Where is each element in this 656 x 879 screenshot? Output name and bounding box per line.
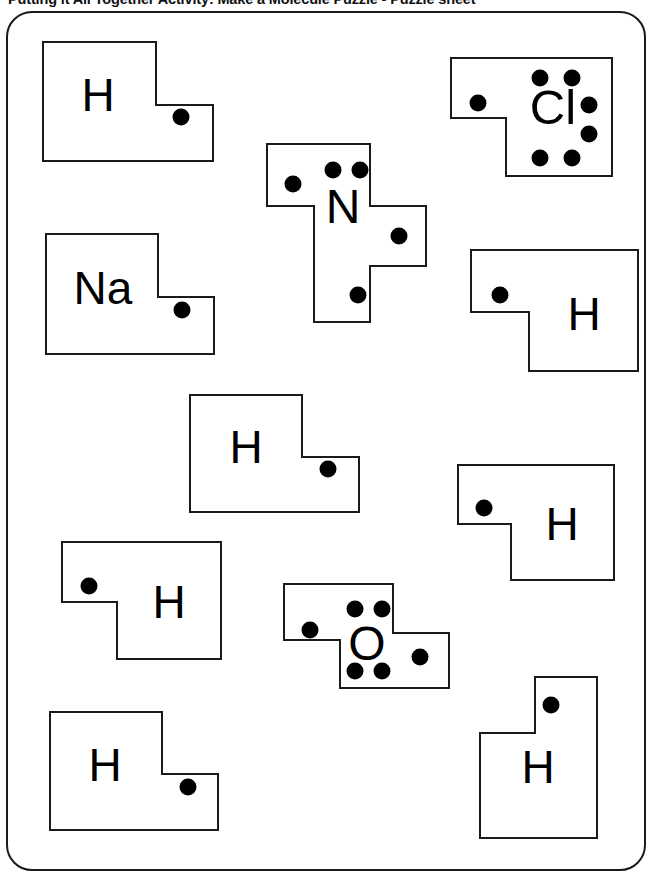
electron-dot — [476, 500, 493, 517]
piece-outline — [43, 42, 213, 161]
electron-dot-tab-right — [391, 228, 408, 245]
puzzle-piece-h-7[interactable]: H — [479, 676, 603, 842]
element-symbol: O — [348, 617, 385, 670]
electron-dot-top-left — [532, 70, 549, 87]
electron-dot-top-left — [347, 601, 364, 618]
element-symbol: H — [545, 498, 578, 550]
electron-dot-top-right — [374, 601, 391, 618]
electron-dot-top-right — [352, 162, 369, 179]
element-symbol: Na — [74, 262, 133, 314]
worksheet-page: Putting it All Together Activity: Make a… — [0, 0, 656, 879]
puzzle-piece-o-1[interactable]: O — [283, 583, 453, 692]
electron-dot — [180, 779, 197, 796]
piece-outline — [50, 712, 218, 830]
electron-dot — [173, 109, 190, 126]
element-symbol: H — [229, 421, 262, 473]
electron-dot-bottom-left — [347, 663, 364, 680]
electron-dot-tab-bottom — [350, 287, 367, 304]
piece-outline — [458, 465, 614, 580]
piece-outline — [190, 395, 359, 512]
electron-dot-tab-right — [412, 649, 429, 666]
piece-outline — [62, 542, 221, 659]
puzzle-piece-n-1[interactable]: N — [266, 143, 445, 325]
electron-dot — [174, 302, 191, 319]
piece-outline — [471, 250, 638, 371]
electron-dot — [320, 461, 337, 478]
element-symbol: H — [81, 69, 114, 121]
puzzle-piece-cl-1[interactable]: Cl — [450, 57, 617, 180]
puzzle-piece-na-1[interactable]: Na — [45, 233, 219, 357]
electron-dot-bottom-left — [532, 150, 549, 167]
electron-dot-right-lower — [581, 126, 598, 143]
electron-dot-top-left — [325, 162, 342, 179]
page-title: Putting it All Together Activity: Make a… — [8, 0, 656, 7]
element-symbol: H — [567, 288, 600, 340]
element-symbol: H — [152, 576, 185, 628]
electron-dot-bottom-right — [374, 663, 391, 680]
puzzle-piece-h-1[interactable]: H — [42, 41, 218, 164]
electron-dot — [492, 287, 509, 304]
electron-dot-tab — [470, 95, 487, 112]
electron-dot — [543, 697, 560, 714]
puzzle-piece-h-2[interactable]: H — [470, 249, 644, 375]
element-symbol: N — [326, 180, 361, 233]
electron-dot-right-upper — [581, 97, 598, 114]
puzzle-piece-h-4[interactable]: H — [457, 464, 619, 584]
electron-dot-top-right — [564, 70, 581, 87]
puzzle-piece-h-3[interactable]: H — [189, 394, 365, 516]
puzzle-piece-h-5[interactable]: H — [61, 541, 226, 663]
electron-dot-tab-left — [285, 176, 302, 193]
element-symbol: H — [521, 741, 554, 793]
element-symbol: H — [88, 739, 121, 791]
electron-dot — [81, 578, 98, 595]
electron-dot-bottom-right — [564, 150, 581, 167]
puzzle-piece-h-6[interactable]: H — [49, 711, 224, 834]
electron-dot-tab-left — [302, 622, 319, 639]
element-symbol: Cl — [530, 80, 576, 134]
